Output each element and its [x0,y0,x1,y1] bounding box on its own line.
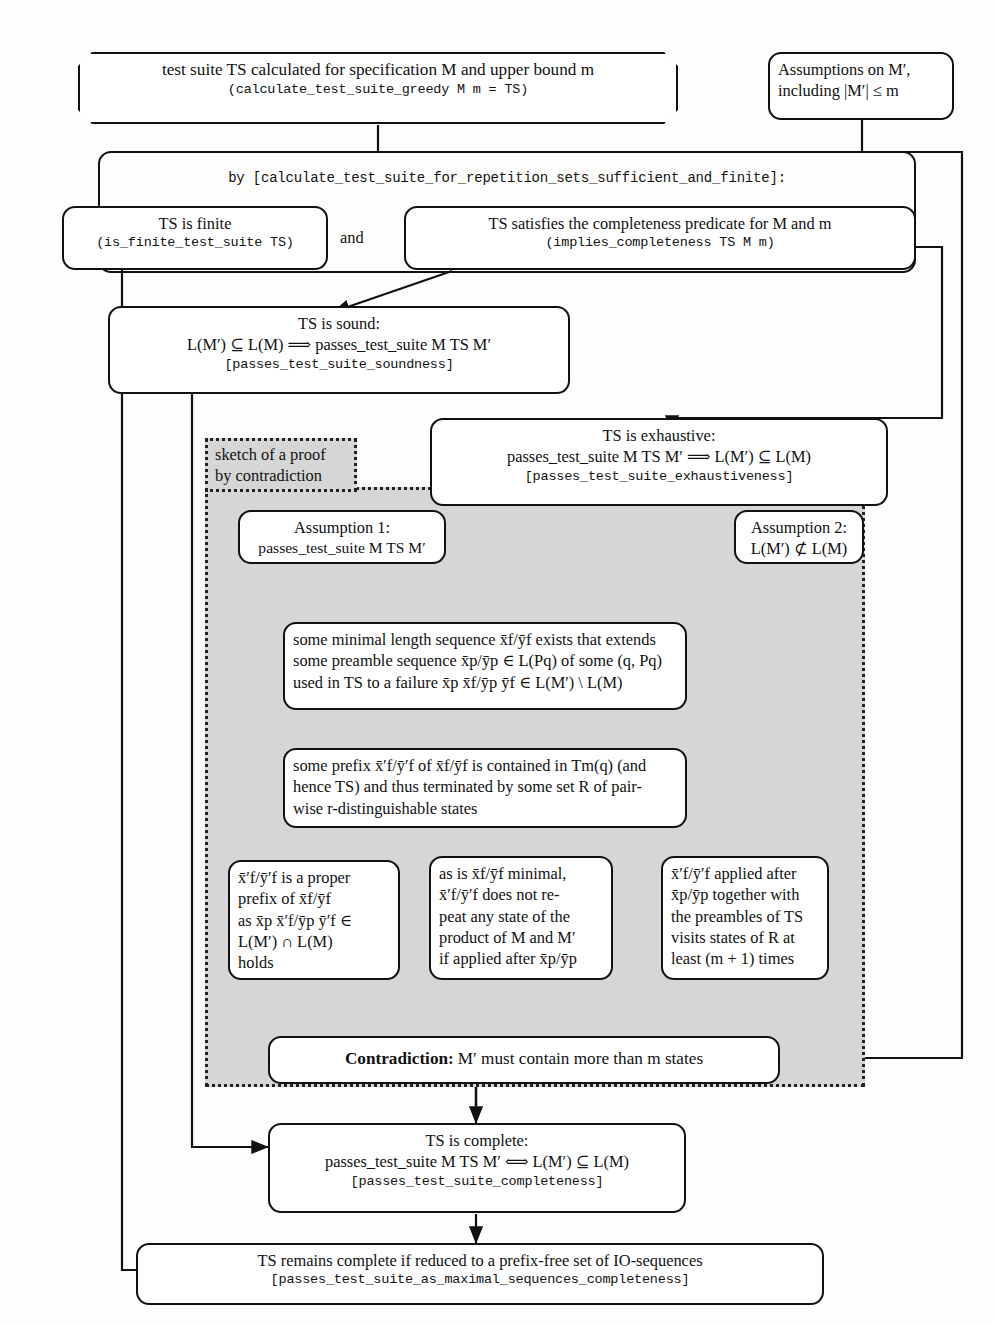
sound-line1: TS is sound: [118,313,560,334]
node-some-prefix: some prefix x̄′f/ȳ′f of x̄f/ȳf is contai… [283,748,687,828]
node-assumptions-on-m-prime: Assumptions on M′, including |M′| ≤ m [768,52,954,120]
minimal-no-repeat-line1: as is x̄f/ȳf minimal, [439,863,603,884]
visits-states-line2: x̄p/ȳp together with [671,884,819,905]
contradiction-text: M′ must contain more than m states [458,1049,703,1068]
proper-prefix-line2: prefix of x̄f/ȳf [238,888,390,909]
node-ts-is-finite: TS is finite (is_finite_test_suite TS) [62,206,328,270]
node-test-suite-calculated: test suite TS calculated for specificati… [78,52,678,124]
assumptions-line1: Assumptions on M′, [778,59,944,80]
remains-complete-line1: TS remains complete if reduced to a pref… [146,1250,814,1271]
minimal-seq-line2: some preamble sequence x̄p/ȳp ∈ L(Pq) of… [293,650,677,671]
remains-complete-line2: [passes_test_suite_as_maximal_sequences_… [146,1271,814,1289]
node-ts-is-sound: TS is sound: L(M′) ⊆ L(M) ⟹ passes_test_… [108,306,570,394]
node-minimal-length-sequence: some minimal length sequence x̄f/ȳf exis… [283,622,687,710]
node-remains-complete: TS remains complete if reduced to a pref… [136,1243,824,1305]
test-suite-line2: (calculate_test_suite_greedy M m = TS) [88,81,668,99]
visits-states-line1: x̄′f/ȳ′f applied after [671,863,819,884]
completeness-predicate-line1: TS satisfies the completeness predicate … [414,213,906,234]
node-ts-is-exhaustive: TS is exhaustive: passes_test_suite M TS… [430,418,888,506]
node-visits-states-of-r: x̄′f/ȳ′f applied after x̄p/ȳp together w… [661,856,829,980]
complete-line3: [passes_test_suite_completeness] [278,1173,676,1191]
exhaustive-line2: passes_test_suite M TS M′ ⟹ L(M′) ⊆ L(M) [440,446,878,467]
exhaustive-line1: TS is exhaustive: [440,425,878,446]
visits-states-line5: least (m + 1) times [671,948,819,969]
node-minimal-no-repeat: as is x̄f/ȳf minimal, x̄′f/ȳ′f does not … [429,856,613,980]
completeness-predicate-line2: (implies_completeness TS M m) [414,234,906,252]
figure-canvas: test suite TS calculated for specificati… [0,0,995,1325]
sound-line3: [passes_test_suite_soundness] [118,356,560,374]
node-proper-prefix: x̄′f/ȳ′f is a proper prefix of x̄f/ȳf as… [228,860,400,980]
sound-line2: L(M′) ⊆ L(M) ⟹ passes_test_suite M TS M′ [118,334,560,355]
proper-prefix-line5: holds [238,952,390,973]
assumption1-line2: passes_test_suite M TS M′ [248,538,436,558]
finite-line2: (is_finite_test_suite TS) [72,234,318,252]
some-prefix-line1: some prefix x̄′f/ȳ′f of x̄f/ȳf is contai… [293,755,677,776]
visits-states-line3: the preambles of TS [671,906,819,927]
some-prefix-line2: hence TS) and thus terminated by some se… [293,776,677,797]
node-completeness-predicate: TS satisfies the completeness predicate … [404,206,916,270]
label-sketch-of-proof: sketch of a proof by contradiction [205,438,357,492]
minimal-no-repeat-line2: x̄′f/ȳ′f does not re- [439,884,603,905]
visits-states-line4: visits states of R at [671,927,819,948]
assumption2-line1: Assumption 2: [744,517,854,538]
complete-line2: passes_test_suite M TS M′ ⟺ L(M′) ⊆ L(M) [278,1151,676,1172]
exhaustive-line3: [passes_test_suite_exhaustiveness] [440,468,878,486]
test-suite-line1: test suite TS calculated for specificati… [88,59,668,81]
proper-prefix-line1: x̄′f/ȳ′f is a proper [238,867,390,888]
proper-prefix-line3: as x̄p x̄′f/ȳp ȳ′f ∈ [238,910,390,931]
assumption1-line1: Assumption 1: [248,517,436,538]
and-label: and [340,228,364,248]
minimal-seq-line1: some minimal length sequence x̄f/ȳf exis… [293,629,677,650]
finite-line1: TS is finite [72,213,318,234]
by-rule-label: by [calculate_test_suite_for_repetition_… [98,168,916,186]
node-assumption-2: Assumption 2: L(M′) ⊄ L(M) [734,510,864,564]
node-assumption-1: Assumption 1: passes_test_suite M TS M′ [238,510,446,564]
assumption2-line2: L(M′) ⊄ L(M) [744,538,854,559]
minimal-no-repeat-line4: product of M and M′ [439,927,603,948]
node-contradiction: Contradiction: M′ must contain more than… [268,1036,780,1084]
minimal-seq-line3: used in TS to a failure x̄p x̄f/ȳp ȳf ∈ … [293,672,677,693]
node-ts-is-complete: TS is complete: passes_test_suite M TS M… [268,1123,686,1213]
sketch-line2: by contradiction [215,465,347,486]
proper-prefix-line4: L(M′) ∩ L(M) [238,931,390,952]
some-prefix-line3: wise r-distinguishable states [293,798,677,819]
sketch-line1: sketch of a proof [215,444,347,465]
minimal-no-repeat-line5: if applied after x̄p/ȳp [439,948,603,969]
minimal-no-repeat-line3: peat any state of the [439,906,603,927]
assumptions-line2: including |M′| ≤ m [778,80,944,101]
complete-line1: TS is complete: [278,1130,676,1151]
contradiction-label: Contradiction: [345,1049,454,1068]
